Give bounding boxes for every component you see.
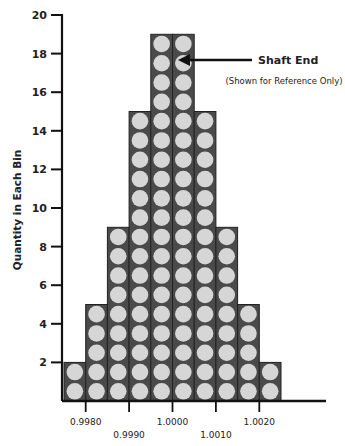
shaft-end-circle bbox=[218, 306, 235, 323]
shaft-end-circle bbox=[240, 383, 257, 400]
shaft-end-circle bbox=[218, 344, 235, 361]
shaft-end-circle bbox=[240, 325, 257, 342]
shaft-end-circle bbox=[132, 325, 149, 342]
shaft-end-circle bbox=[197, 132, 214, 149]
shaft-end-circle bbox=[153, 190, 170, 207]
y-tick-label: 2 bbox=[39, 356, 47, 369]
shaft-end-circle bbox=[132, 306, 149, 323]
y-tick-label: 16 bbox=[32, 86, 48, 99]
shaft-end-circle bbox=[197, 306, 214, 323]
shaft-end-circle bbox=[153, 267, 170, 284]
x-tick-label: 0.9990 bbox=[113, 430, 145, 440]
shaft-end-circle bbox=[132, 171, 149, 188]
shaft-end-circle bbox=[132, 132, 149, 149]
shaft-end-circle bbox=[175, 171, 192, 188]
shaft-end-circle bbox=[175, 36, 192, 53]
shaft-end-circle bbox=[153, 74, 170, 91]
shaft-end-circle bbox=[132, 229, 149, 246]
y-tick-label: 10 bbox=[32, 202, 48, 215]
bins bbox=[64, 34, 281, 401]
shaft-end-circle bbox=[153, 55, 170, 72]
shaft-end-circle bbox=[218, 267, 235, 284]
shaft-end-circle bbox=[153, 383, 170, 400]
shaft-end-circle bbox=[132, 383, 149, 400]
shaft-end-circle bbox=[197, 171, 214, 188]
bin-column bbox=[259, 362, 281, 401]
shaft-end-circle bbox=[153, 364, 170, 381]
shaft-end-circle bbox=[88, 306, 105, 323]
shaft-end-circle bbox=[88, 344, 105, 361]
shaft-end-circle bbox=[175, 364, 192, 381]
bin-column bbox=[238, 305, 260, 402]
shaft-end-circle bbox=[197, 229, 214, 246]
histogram-chart: 2468101214161820 0.99800.99901.00001.001… bbox=[0, 0, 345, 446]
shaft-end-circle bbox=[175, 248, 192, 265]
bin-column bbox=[129, 112, 151, 402]
x-tick-label: 1.0010 bbox=[200, 430, 232, 440]
y-tick-label: 6 bbox=[39, 279, 47, 292]
shaft-end-circle bbox=[197, 364, 214, 381]
shaft-end-circle bbox=[110, 267, 127, 284]
shaft-end-circle bbox=[175, 113, 192, 130]
bin-column bbox=[194, 112, 216, 402]
shaft-end-circle bbox=[132, 267, 149, 284]
shaft-end-circle bbox=[132, 344, 149, 361]
shaft-end-circle bbox=[218, 364, 235, 381]
shaft-end-circle bbox=[153, 248, 170, 265]
shaft-end-circle bbox=[197, 151, 214, 168]
shaft-end-circle bbox=[175, 74, 192, 91]
shaft-end-circle bbox=[88, 383, 105, 400]
shaft-end-circle bbox=[132, 190, 149, 207]
y-tick-label: 8 bbox=[39, 241, 47, 254]
shaft-end-circle bbox=[175, 287, 192, 304]
shaft-end-circle bbox=[153, 209, 170, 226]
bin-column bbox=[216, 227, 238, 401]
shaft-end-circle bbox=[132, 248, 149, 265]
shaft-end-circle bbox=[132, 364, 149, 381]
shaft-end-circle bbox=[67, 383, 84, 400]
y-tick-label: 14 bbox=[32, 125, 48, 138]
shaft-end-circle bbox=[132, 151, 149, 168]
shaft-end-circle bbox=[175, 132, 192, 149]
bin-column bbox=[64, 362, 86, 401]
shaft-end-circle bbox=[197, 113, 214, 130]
annotation-title: Shaft End bbox=[258, 54, 318, 67]
shaft-end-circle bbox=[153, 306, 170, 323]
shaft-end-circle bbox=[153, 325, 170, 342]
shaft-end-circle bbox=[110, 306, 127, 323]
y-tick-label: 4 bbox=[39, 318, 47, 331]
shaft-end-circle bbox=[88, 325, 105, 342]
shaft-end-circle bbox=[262, 364, 279, 381]
shaft-end-circle bbox=[110, 344, 127, 361]
shaft-end-circle bbox=[153, 151, 170, 168]
shaft-end-circle bbox=[175, 344, 192, 361]
x-tick-label: 0.9980 bbox=[70, 417, 102, 427]
shaft-end-circle bbox=[132, 287, 149, 304]
shaft-end-circle bbox=[110, 287, 127, 304]
shaft-end-circle bbox=[110, 325, 127, 342]
shaft-end-annotation: Shaft End (Shown for Reference Only) bbox=[178, 54, 343, 86]
y-tick-label: 18 bbox=[32, 48, 47, 61]
shaft-end-circle bbox=[110, 364, 127, 381]
shaft-end-circle bbox=[153, 287, 170, 304]
shaft-end-circle bbox=[153, 171, 170, 188]
bin-column bbox=[107, 227, 129, 401]
x-axis-ticks: 0.99800.99901.00001.00101.0020 bbox=[70, 401, 275, 440]
y-tick-label: 12 bbox=[32, 163, 47, 176]
bin-column bbox=[173, 34, 195, 401]
shaft-end-circle bbox=[218, 383, 235, 400]
x-tick-label: 1.0000 bbox=[157, 417, 189, 427]
shaft-end-circle bbox=[88, 364, 105, 381]
shaft-end-circle bbox=[132, 113, 149, 130]
shaft-end-circle bbox=[153, 132, 170, 149]
shaft-end-circle bbox=[218, 229, 235, 246]
shaft-end-circle bbox=[197, 190, 214, 207]
shaft-end-circle bbox=[262, 383, 279, 400]
shaft-end-circle bbox=[175, 229, 192, 246]
x-tick-label: 1.0020 bbox=[244, 417, 276, 427]
shaft-end-circle bbox=[197, 383, 214, 400]
shaft-end-circle bbox=[240, 344, 257, 361]
shaft-end-circle bbox=[197, 209, 214, 226]
bin-column bbox=[151, 34, 173, 401]
shaft-end-circle bbox=[153, 229, 170, 246]
